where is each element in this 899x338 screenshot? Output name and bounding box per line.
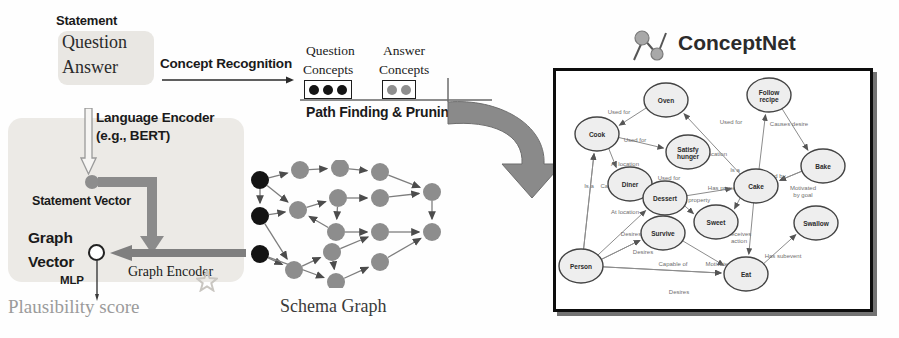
schema-edge xyxy=(333,261,334,269)
statement-label: Statement xyxy=(56,13,117,28)
language-encoder-label-line2: (e.g., BERT) xyxy=(96,128,170,143)
conceptnet-edge-label: Is a xyxy=(584,183,594,189)
schema-edge xyxy=(388,238,421,257)
conceptnet-node-label: Follow xyxy=(759,89,781,96)
schema-node xyxy=(371,163,389,181)
schema-node xyxy=(327,223,345,241)
schema-edge xyxy=(309,169,327,170)
conceptnet-node-label: Eat xyxy=(741,271,752,278)
schema-edge xyxy=(337,207,338,219)
conceptnet-node: Cook xyxy=(575,117,619,151)
concept-dot xyxy=(387,85,397,95)
conceptnet-edge-label: Desires xyxy=(669,289,689,295)
conceptnet-node-label: Diner xyxy=(622,181,639,188)
conceptnet-edge-label: Desires xyxy=(633,249,653,255)
conceptnet-node: Cake xyxy=(734,169,778,203)
schema-node xyxy=(289,201,307,219)
conceptnet-edge-label: Used for xyxy=(720,119,743,125)
conceptnet-edge-label: Used for xyxy=(608,109,631,115)
conceptnet-node: Followrecipe xyxy=(747,78,791,112)
schema-node xyxy=(327,273,345,288)
schema-edge xyxy=(349,169,367,171)
path-finding-pruning-label: Path Finding & Pruning xyxy=(306,104,457,120)
conceptnet-edge-label: Used for xyxy=(658,175,681,181)
conceptnet-node: Person xyxy=(559,249,603,283)
plausibility-score-label: Plausibility score xyxy=(8,296,139,318)
mlp-label: MLP xyxy=(60,274,84,286)
conceptnet-node: Satisfyhunger xyxy=(666,135,710,169)
schema-node xyxy=(323,243,341,261)
conceptnet-logo-icon xyxy=(628,28,672,64)
conceptnet-node-label: Person xyxy=(570,263,592,270)
conceptnet-edge-label: by goal xyxy=(793,192,812,198)
answer-concepts-label-line2: Concepts xyxy=(379,62,429,78)
question-concepts-box xyxy=(304,80,352,99)
concept-recognition-arrow xyxy=(162,76,294,85)
schema-node xyxy=(291,161,309,179)
concept-dot xyxy=(323,85,333,95)
conceptnet-node: Swallow xyxy=(794,206,838,240)
conceptnet-edge-label: At location xyxy=(611,161,639,167)
graph-encoder-arrow xyxy=(106,244,246,262)
conceptnet-edge-label: Motivated xyxy=(790,185,816,191)
schema-node xyxy=(331,160,349,177)
answer-concepts-label-line1: Answer xyxy=(383,43,425,59)
conceptnet-node-label: Cook xyxy=(589,131,606,138)
concept-dot xyxy=(401,85,411,95)
schema-edge xyxy=(340,237,368,249)
conceptnet-edge xyxy=(781,107,808,150)
schema-edge xyxy=(302,258,320,267)
schema-graph-caption: Schema Graph xyxy=(280,296,386,317)
language-encoder-arrow xyxy=(80,108,97,176)
conceptnet-node-label: Oven xyxy=(658,97,674,104)
schema-edge xyxy=(269,212,285,215)
conceptnet-edge-label: Desires xyxy=(621,231,641,237)
spark-star-icon xyxy=(196,270,218,292)
conceptnet-graph: Used forUsed forAt locationAt locationUs… xyxy=(553,68,873,312)
conceptnet-edge xyxy=(583,154,594,251)
schema-node xyxy=(371,253,389,271)
schema-node xyxy=(329,189,347,207)
schema-edge xyxy=(267,186,288,202)
schema-node xyxy=(423,183,441,201)
conceptnet-edge xyxy=(762,235,795,265)
schema-node xyxy=(251,245,269,263)
concept-recognition-label: Concept Recognition xyxy=(160,56,292,71)
conceptnet-node-label: Sweet xyxy=(707,219,727,226)
conceptnet-node: Eat xyxy=(724,257,768,291)
conceptnet-edge-label: Used for xyxy=(624,137,647,143)
conceptnet-title: ConceptNet xyxy=(678,31,796,55)
conceptnet-node: Survive xyxy=(641,216,685,250)
schema-node xyxy=(251,207,269,225)
schema-node xyxy=(251,171,269,189)
conceptnet-node-label: hunger xyxy=(677,153,699,161)
schema-node xyxy=(423,223,441,241)
graph-vector-node xyxy=(88,244,105,261)
schema-graph xyxy=(246,160,482,288)
concept-dot xyxy=(309,85,319,95)
conceptnet-node-label: Cake xyxy=(748,183,764,190)
conceptnet-node-label: Bake xyxy=(815,163,831,170)
question-text: Question xyxy=(62,32,127,53)
conceptnet-edge xyxy=(759,115,766,171)
conceptnet-edge xyxy=(601,267,721,273)
schema-edge xyxy=(389,193,419,196)
conceptnet-edge-label: Causes desire xyxy=(770,121,809,127)
conceptnet-node: Sweet xyxy=(694,205,738,239)
conceptnet-node: Bake xyxy=(801,149,845,183)
schema-edge xyxy=(344,267,368,278)
answer-text: Answer xyxy=(62,57,118,78)
schema-edge xyxy=(388,175,419,187)
conceptnet-node-label: Survive xyxy=(651,230,675,237)
conceptnet-edge-label: Has subevent xyxy=(765,253,802,259)
graph-vector-label-line1: Graph xyxy=(28,229,73,247)
conceptnet-edge-label: Capable of xyxy=(658,261,687,267)
figure-canvas: Statement Question Answer Concept Recogn… xyxy=(0,0,899,338)
answer-concepts-box xyxy=(382,80,416,99)
conceptnet-node-label: Dessert xyxy=(653,195,678,202)
language-encoder-label-line1: Language Encoder xyxy=(96,110,214,125)
schema-edge xyxy=(269,173,288,178)
question-concepts-label-line2: Concepts xyxy=(303,62,353,78)
question-concepts-label-line1: Question xyxy=(306,43,355,59)
conceptnet-edge-label: action xyxy=(731,238,747,244)
